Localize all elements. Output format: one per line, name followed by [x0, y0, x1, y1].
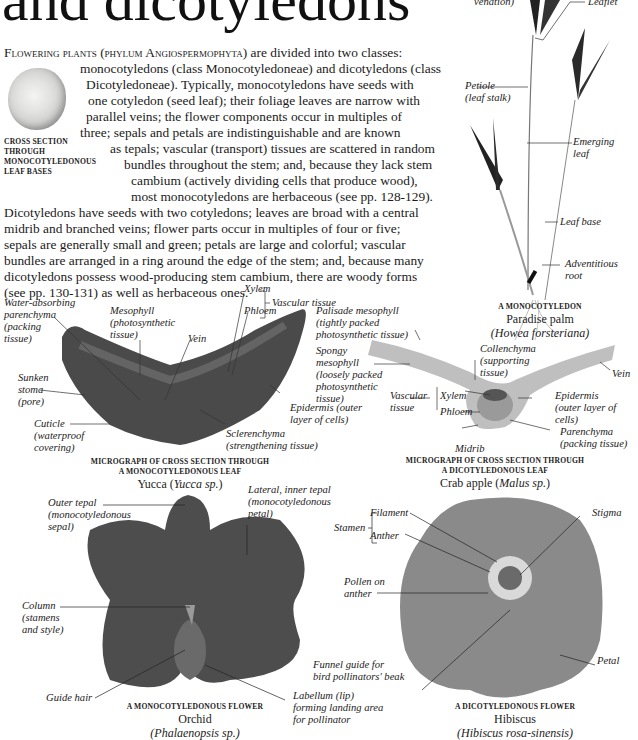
label-water-absorbing-parenchyma: Water-absorbingparenchyma(packingtissue)	[4, 297, 75, 345]
intro-line: midrib and branched veins; flower parts …	[4, 221, 400, 237]
label-parenchyma: Parenchyma(packing tissue)	[560, 426, 627, 450]
intro-line: most monocotyledons are herbaceous (see …	[131, 189, 433, 205]
label-midrib: Midrib	[455, 443, 484, 455]
label-cuticle: Cuticle(waterproofcovering)	[34, 418, 84, 454]
label-petiole: Petiole(leaf stalk)	[465, 80, 511, 104]
intro-line: as tepals; vascular (transport) tissues …	[110, 141, 435, 157]
label-mesophyll: Mesophyll(photosynthetictissue)	[110, 305, 175, 341]
label-stamen: Stamen	[334, 522, 365, 534]
yucca-leaf-micrograph	[62, 309, 306, 445]
intro-line: Dicotyledons have seeds with two cotyled…	[4, 205, 419, 221]
label-guide-hair: Guide hair	[46, 692, 92, 704]
label-sunken-stoma: Sunkenstoma(pore)	[18, 372, 49, 408]
intro-line-0: Flowering plants (phylum Angiospermophyt…	[4, 45, 402, 61]
label-epidermis: Epidermis (outerlayer of cells)	[290, 402, 362, 426]
label-pollen-on-anther: Pollen onanther	[344, 576, 385, 600]
orchid-caption: A MONOCOTYLEDONOUS FLOWER Orchid (Phalae…	[100, 702, 290, 740]
intro-line: parallel veins; the flower components oc…	[86, 109, 402, 125]
label-emerging-leaf: Emergingleaf	[573, 136, 614, 160]
label-stigma: Stigma	[592, 507, 621, 519]
label-leaf-base: Leaf base	[560, 216, 601, 228]
intro-line: monocotyledons (class Monocotyledoneae) …	[80, 61, 441, 77]
page-title: and dicotyledons	[2, 0, 410, 30]
label-palisade-mesophyll: Palisade mesophyll(tightly packedphotosy…	[316, 305, 408, 341]
palm-caption: A MONOCOTYLEDON Paradise palm (Howea for…	[470, 302, 610, 340]
intro-line: sepals are generally small and green; pe…	[4, 237, 406, 253]
label-funnel-guide: Funnel guide forbird pollinators' beak	[313, 659, 404, 683]
intro-line: three; sepals and petals are indistingui…	[80, 125, 401, 141]
label-filament: Filament	[370, 507, 408, 519]
label-vein: Vein	[612, 368, 630, 380]
palm-image	[470, 0, 610, 340]
label-adventitious-root: Adventitiousroot	[565, 258, 618, 282]
label-labellum: Labellum (lip)forming landing areafor po…	[293, 690, 383, 726]
intro-lead: Flowering plants (phylum Angiospermophyt…	[4, 45, 247, 60]
label-sclerenchyma: Sclerenchyma(strengthening tissue)	[226, 428, 318, 452]
hibiscus-caption: A DICOTYLEDONOUS FLOWER Hibiscus (Hibisc…	[420, 702, 610, 740]
label-anther: Anther	[370, 530, 399, 542]
intro-line: bundles are arranged in a ring around th…	[4, 253, 424, 269]
intro-line: one cotyledon (seed leaf); their foliage…	[88, 93, 420, 109]
label-venation: venation)	[474, 0, 514, 8]
label-vein: Vein	[188, 333, 206, 345]
label-xylem: Xylem	[244, 283, 270, 295]
label-leaflet: Leaflet	[588, 0, 617, 8]
label-vascular-tissue: Vasculartissue	[390, 390, 427, 414]
intro-line: cambium (actively dividing cells that pr…	[131, 173, 418, 189]
crab-apple-caption: MICROGRAPH OF CROSS SECTION THROUGH A DI…	[380, 456, 610, 490]
label-epidermis: Epidermis(outer layer ofcells)	[555, 390, 616, 426]
label-outer-tepal: Outer tepal(monocotyledonoussepal)	[48, 497, 131, 533]
label-phloem: Phloem	[440, 406, 472, 418]
label-xylem: Xylem	[440, 390, 466, 402]
intro-line: bundles throughout the stem; and, becaus…	[124, 157, 432, 173]
label-lateral-inner-tepal: Lateral, inner tepal(monocotyledonouspet…	[248, 484, 331, 520]
hibiscus-image	[400, 498, 603, 698]
label-spongy-mesophyll: Spongymesophyll(loosely packedphotosynth…	[316, 345, 382, 405]
label-petal: Petal	[597, 655, 619, 667]
leaf-base-caption: CROSS SECTION THROUGH MONOCOTYLEDONOUS L…	[4, 137, 96, 177]
intro-line: Dicotyledoneae). Typically, monocotyledo…	[86, 77, 414, 93]
label-column: Column(stamensand style)	[22, 600, 63, 636]
label-collenchyma: Collenchyma(supportingtissue)	[480, 343, 536, 379]
intro-line: dicotyledons possess wood-producing stem…	[4, 269, 417, 285]
leaf-base-cross-section-image	[8, 68, 66, 130]
